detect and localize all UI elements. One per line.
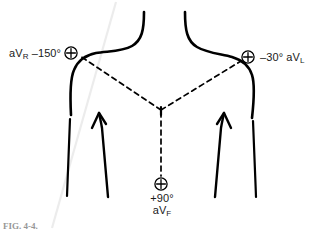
plus-glyph <box>67 49 76 58</box>
avf-lead-name-line: aVF <box>142 204 182 216</box>
avr-angle-value: –150° <box>32 47 61 59</box>
plus-glyph <box>157 180 166 189</box>
avf-lead-name: aV <box>153 204 167 216</box>
plus-glyph <box>244 53 253 62</box>
avl-lead-label: –30° aVL <box>260 51 305 63</box>
avl-angle-value: –30° <box>260 51 283 63</box>
right-inner-arm-line <box>215 113 224 197</box>
avf-lead-label: +90°aVF <box>142 192 182 217</box>
right-arm-arrowhead-icon <box>217 113 231 128</box>
right-neck-shoulder-outline <box>185 12 254 118</box>
figure-caption: FIG. 4-4. <box>3 221 38 231</box>
left-outer-body-line <box>67 119 70 196</box>
avl-axis-dashed-line <box>161 61 241 110</box>
scan-artifact-streak <box>52 2 116 228</box>
avl-lead-subscript: L <box>300 56 305 65</box>
avr-lead-name: aV <box>9 47 23 59</box>
right-outer-body-line <box>253 121 256 197</box>
avr-lead-subscript: R <box>23 52 29 61</box>
left-neck-shoulder-outline <box>70 12 144 115</box>
avr-lead-label: aVR –150° <box>9 47 61 59</box>
avf-angle-value: +90° <box>142 192 182 204</box>
avf-polarity-marker <box>155 178 167 190</box>
avl-polarity-marker <box>242 51 254 63</box>
avl-lead-name: aV <box>286 51 300 63</box>
left-arm-arrowhead-icon <box>92 113 106 128</box>
ecg-axis-figure: aVR –150° –30° aVL +90°aVF FIG. 4-4. <box>0 0 316 231</box>
avr-polarity-marker <box>65 47 77 59</box>
avf-lead-subscript: F <box>166 209 171 218</box>
left-inner-arm-line <box>99 113 108 197</box>
